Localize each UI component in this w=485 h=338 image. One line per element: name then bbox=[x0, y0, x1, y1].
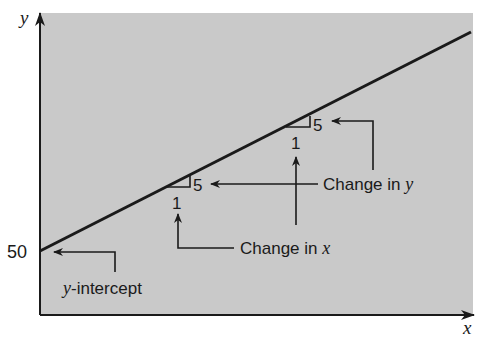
linear-function-diagram: y x 50 5 1 5 1 Change in y Change in x y… bbox=[0, 0, 485, 338]
y-tick-50: 50 bbox=[7, 242, 27, 262]
rise-label-1: 5 bbox=[193, 176, 202, 195]
rise-label-2: 5 bbox=[313, 116, 322, 135]
change-in-y-label: Change in y bbox=[323, 174, 413, 194]
y-intercept-label: y-intercept bbox=[61, 278, 142, 298]
y-axis-label: y bbox=[18, 7, 29, 28]
run-label-2: 1 bbox=[291, 134, 300, 153]
run-label-1: 1 bbox=[172, 194, 181, 213]
x-axis-label: x bbox=[462, 317, 472, 338]
plot-area bbox=[40, 13, 473, 315]
change-in-x-label: Change in x bbox=[240, 238, 330, 258]
